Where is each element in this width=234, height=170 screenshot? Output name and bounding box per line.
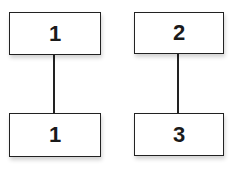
node-top-right: 2 xyxy=(134,12,224,54)
node-bottom-left: 1 xyxy=(9,113,101,157)
edge-right xyxy=(177,54,179,113)
edge-left xyxy=(53,55,55,113)
node-bottom-right: 3 xyxy=(134,113,224,156)
node-top-left: 1 xyxy=(9,12,101,55)
